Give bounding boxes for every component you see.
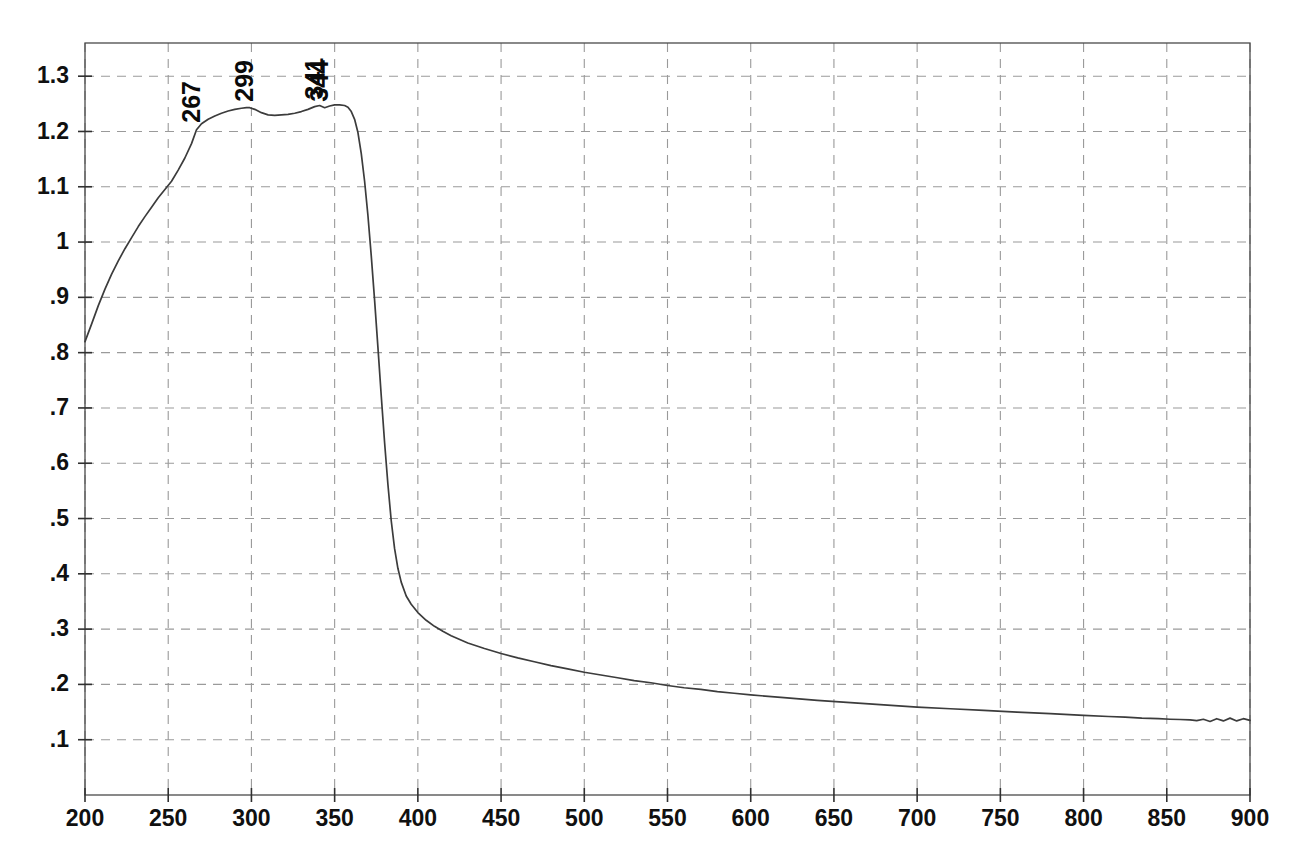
x-tick-label: 300 <box>232 805 270 831</box>
y-tick-label: 1.2 <box>37 118 69 144</box>
spectrum-chart: .1.2.3.4.5.6.7.8.911.11.21.3 20025030035… <box>0 0 1315 866</box>
y-tick-label: .3 <box>50 615 69 641</box>
x-axis-tick-labels: 2002503003504004505005506006507007508008… <box>66 805 1269 831</box>
y-tick-label: .5 <box>50 505 69 531</box>
x-tick-label: 750 <box>981 805 1019 831</box>
plot-canvas: .1.2.3.4.5.6.7.8.911.11.21.3 20025030035… <box>0 0 1315 866</box>
x-tick-label: 200 <box>66 805 104 831</box>
x-tick-label: 800 <box>1064 805 1102 831</box>
y-tick-label: .4 <box>50 560 69 586</box>
y-tick-label: .8 <box>50 339 69 365</box>
x-tick-label: 350 <box>315 805 353 831</box>
y-tick-label: .2 <box>50 670 69 696</box>
x-tick-label: 650 <box>815 805 853 831</box>
y-tick-label: .1 <box>50 726 69 752</box>
x-tick-label: 850 <box>1148 805 1186 831</box>
y-tick-label: 1.1 <box>37 173 69 199</box>
x-tick-label: 600 <box>732 805 770 831</box>
y-tick-label: .7 <box>50 394 69 420</box>
peak-label: 267 <box>177 81 205 123</box>
y-tick-label: .6 <box>50 449 69 475</box>
x-tick-label: 250 <box>149 805 187 831</box>
peak-label: 344 <box>305 60 333 102</box>
y-tick-label: 1.3 <box>37 62 69 88</box>
x-tick-label: 900 <box>1231 805 1269 831</box>
y-tick-label: 1 <box>56 228 69 254</box>
x-tick-label: 450 <box>482 805 520 831</box>
y-tick-label: .9 <box>50 283 69 309</box>
x-tick-label: 500 <box>565 805 603 831</box>
x-tick-label: 700 <box>898 805 936 831</box>
x-tick-label: 400 <box>399 805 437 831</box>
peak-label: 299 <box>230 60 258 102</box>
x-tick-label: 550 <box>648 805 686 831</box>
